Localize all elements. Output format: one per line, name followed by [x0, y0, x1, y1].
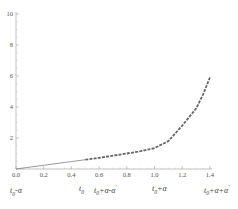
line-chart: 0.00.20.40.60.81.01.21.4246810 — [0, 0, 238, 209]
x-tick-label: 0.6 — [95, 171, 104, 178]
x-tick-label: 1.2 — [178, 171, 186, 178]
x-tick-label: 0.2 — [40, 171, 48, 178]
series-lines — [16, 78, 210, 170]
y-tick-label: 4 — [10, 103, 14, 110]
x-tick-label: 0.0 — [12, 171, 20, 178]
annotation-t0-plus-alpha: t0+α — [152, 184, 167, 195]
annotation-t0-plus-alpha-minus-alphaprime: t0+α-α′ — [94, 184, 117, 196]
x-tick-label: 0.8 — [123, 171, 131, 178]
dashed-curve — [85, 78, 210, 160]
annotation-t0: t0 — [79, 184, 84, 195]
x-tick-label: 1.4 — [206, 171, 215, 178]
x-tick-label: 1.0 — [150, 171, 158, 178]
x-tick-label: 0.4 — [67, 171, 76, 178]
y-tick-label: 10 — [7, 10, 14, 17]
annotation-t0-minus-alpha: t0-α — [10, 186, 22, 197]
y-tick-label: 8 — [10, 41, 13, 48]
y-tick-label: 6 — [10, 72, 14, 79]
y-tick-label: 2 — [10, 134, 13, 141]
axis-ticks: 0.00.20.40.60.81.01.21.4246810 — [7, 10, 215, 178]
axes — [16, 12, 212, 169]
annotation-t0-plus-alpha-plus-alphaprime: t0+α+α′ — [204, 184, 229, 196]
